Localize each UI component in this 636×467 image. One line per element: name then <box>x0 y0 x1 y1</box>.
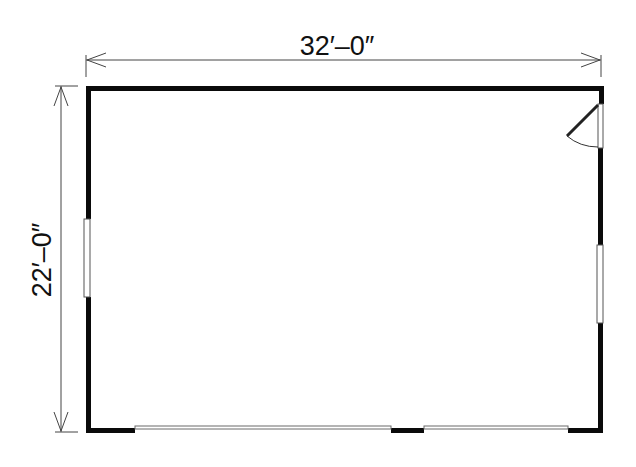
depth-dimension-label: 22′–0″ <box>27 222 57 297</box>
wall-top <box>86 86 604 91</box>
window-left-frame <box>84 219 90 297</box>
width-dimension: 32′–0″ <box>86 31 601 77</box>
floor-plan: 32′–0″ 22′–0″ <box>0 0 636 467</box>
wall-left-lower <box>86 297 91 433</box>
door-leaf <box>567 105 598 136</box>
garage-door-right <box>424 426 568 429</box>
door-right <box>567 104 603 148</box>
wall-bottom-right-pier <box>568 428 603 433</box>
garage-door-left-frame <box>135 426 391 429</box>
wall-bottom-left-pier <box>86 428 135 433</box>
wall-right-top <box>599 86 604 104</box>
width-dimension-label: 32′–0″ <box>300 31 375 61</box>
wall-right-lower <box>598 323 603 433</box>
wall-right-middle <box>598 148 603 245</box>
door-opening-frame <box>598 104 603 148</box>
wall-bottom-middle-pier <box>391 428 424 433</box>
garage-door-right-frame <box>424 426 568 429</box>
door-swing-arc <box>567 136 598 147</box>
wall-left-upper <box>86 86 91 219</box>
window-right-frame <box>597 245 603 323</box>
garage-door-left <box>135 426 391 429</box>
depth-dimension: 22′–0″ <box>27 86 78 432</box>
walls <box>86 86 604 433</box>
window-right <box>597 245 603 323</box>
window-left <box>84 219 90 297</box>
